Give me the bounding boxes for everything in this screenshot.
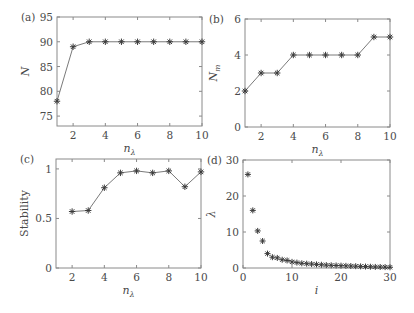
asterisk-marker — [338, 52, 344, 58]
asterisk-marker — [167, 39, 173, 45]
asterisk-marker — [242, 88, 248, 94]
asterisk-marker — [255, 228, 261, 234]
y-axis-label: N — [19, 66, 32, 77]
asterisk-marker — [294, 260, 300, 266]
x-tick-label: 8 — [165, 271, 172, 283]
y-tick-label: 30 — [226, 154, 239, 166]
y-tick-label: 80 — [40, 85, 53, 97]
y-tick-label: 2 — [234, 85, 241, 97]
x-tick-label: 8 — [166, 129, 173, 141]
x-axis-label: i — [315, 284, 319, 297]
asterisk-marker — [118, 39, 124, 45]
asterisk-marker — [306, 52, 312, 58]
figure-canvas: 2468107580859095(a)nλN 2468100246(b)nλNm… — [0, 0, 414, 313]
asterisk-marker — [258, 70, 264, 76]
x-tick-label: 4 — [101, 271, 108, 283]
y-tick-label: 1 — [45, 163, 52, 175]
asterisk-marker — [198, 169, 204, 175]
y-axis-label: λ — [205, 211, 218, 219]
axes-frame — [56, 159, 201, 268]
panel-d-lambda-vs-i: 01020300102030(d)iλ — [205, 154, 397, 297]
panel-c-stability-vs-nlambda: 24681000.51(c)nλStability — [18, 153, 208, 299]
panel-b-nm-vs-nlambda: 2468100246(b)nλNm — [207, 13, 397, 158]
x-tick-label: 4 — [102, 129, 109, 141]
asterisk-marker — [260, 238, 266, 244]
asterisk-marker — [250, 207, 256, 213]
y-tick-label: 85 — [40, 61, 53, 73]
asterisk-marker — [289, 259, 295, 265]
asterisk-marker — [322, 52, 328, 58]
x-tick-label: 10 — [383, 130, 396, 142]
y-tick-label: 0 — [45, 262, 52, 274]
axes-frame — [243, 160, 390, 268]
asterisk-marker — [290, 52, 296, 58]
asterisk-marker — [284, 257, 290, 263]
x-tick-label: 6 — [134, 129, 141, 141]
y-tick-label: 0 — [234, 121, 241, 133]
panel-tag: (c) — [20, 153, 34, 165]
y-tick-label: 95 — [40, 11, 53, 23]
series-line — [57, 42, 202, 101]
y-tick-label: 6 — [234, 13, 241, 25]
y-tick-label: 0 — [232, 262, 239, 274]
asterisk-marker — [101, 185, 107, 191]
y-tick-label: 0.5 — [35, 212, 52, 224]
asterisk-marker — [274, 70, 280, 76]
x-tick-label: 2 — [258, 130, 265, 142]
series-line — [72, 171, 201, 212]
y-tick-label: 20 — [226, 190, 239, 202]
x-axis-label: nλ — [124, 142, 136, 157]
y-tick-label: 4 — [234, 49, 241, 61]
panel-tag: (a) — [21, 11, 35, 23]
asterisk-marker — [182, 184, 188, 190]
asterisk-marker — [265, 251, 271, 257]
asterisk-marker — [54, 98, 60, 104]
asterisk-marker — [279, 257, 285, 263]
asterisk-marker — [371, 34, 377, 40]
asterisk-marker — [69, 208, 75, 214]
asterisk-marker — [149, 170, 155, 176]
panel-tag: (d) — [207, 154, 222, 166]
asterisk-marker — [199, 39, 205, 45]
x-tick-label: 2 — [69, 271, 76, 283]
axes-frame — [57, 17, 202, 126]
series-line — [245, 37, 390, 91]
asterisk-marker — [387, 264, 393, 270]
x-axis-label: nλ — [123, 284, 135, 299]
x-tick-label: 6 — [322, 130, 329, 142]
x-tick-label: 20 — [334, 271, 347, 283]
asterisk-marker — [245, 171, 251, 177]
asterisk-marker — [355, 52, 361, 58]
asterisk-marker — [85, 207, 91, 213]
asterisk-marker — [133, 168, 139, 174]
asterisk-marker — [70, 44, 76, 50]
y-axis-label: Nm — [207, 65, 222, 83]
panel-a-n-vs-nlambda: 2468107580859095(a)nλN — [19, 11, 209, 157]
asterisk-marker — [269, 254, 275, 260]
x-tick-label: 8 — [354, 130, 361, 142]
x-tick-label: 2 — [70, 129, 77, 141]
asterisk-marker — [387, 34, 393, 40]
y-tick-label: 90 — [40, 36, 53, 48]
asterisk-marker — [102, 39, 108, 45]
asterisk-marker — [134, 39, 140, 45]
asterisk-marker — [150, 39, 156, 45]
panel-tag: (b) — [209, 13, 224, 25]
x-tick-label: 10 — [194, 271, 207, 283]
x-tick-label: 10 — [195, 129, 208, 141]
y-tick-label: 75 — [40, 110, 53, 122]
asterisk-marker — [86, 39, 92, 45]
x-tick-label: 30 — [383, 271, 396, 283]
x-tick-label: 0 — [240, 271, 247, 283]
y-axis-label: Stability — [18, 189, 31, 237]
asterisk-marker — [183, 39, 189, 45]
asterisk-marker — [117, 170, 123, 176]
x-tick-label: 6 — [133, 271, 140, 283]
x-tick-label: 4 — [290, 130, 297, 142]
x-tick-label: 10 — [285, 271, 298, 283]
x-axis-label: nλ — [312, 143, 324, 158]
y-tick-label: 10 — [226, 226, 239, 238]
asterisk-marker — [166, 168, 172, 174]
